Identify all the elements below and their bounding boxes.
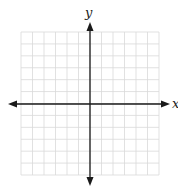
x-axis-left-arrow-icon (8, 101, 17, 108)
y-axis-label: y (84, 5, 93, 20)
x-axis-label: x (172, 96, 178, 111)
y-axis-down-arrow-icon (87, 177, 94, 186)
coordinate-plane: y x (0, 0, 178, 191)
x-axis-right-arrow-icon (161, 101, 170, 108)
y-axis-up-arrow-icon (87, 22, 94, 31)
